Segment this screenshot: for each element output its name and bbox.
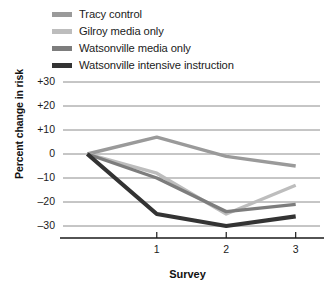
legend-label-watsonville-media-only: Watsonville media only xyxy=(79,42,191,54)
legend-label-watsonville-intensive-instruction: Watsonville intensive instruction xyxy=(79,59,234,71)
legend-swatch-gilroy-media-only xyxy=(52,29,72,34)
legend-swatch-watsonville-intensive-instruction xyxy=(52,63,72,68)
x-tick-label-2: 2 xyxy=(214,243,238,255)
y-tick-label-0: +30 xyxy=(21,75,55,87)
legend-item-watsonville-media-only: Watsonville media only xyxy=(52,40,327,56)
legend-swatch-watsonville-media-only xyxy=(52,46,72,51)
legend-item-gilroy-media-only: Gilroy media only xyxy=(52,23,327,39)
y-tick-label-5: –20 xyxy=(21,195,55,207)
x-axis-title: Survey xyxy=(60,268,315,280)
legend-item-tracy-control: Tracy control xyxy=(52,6,327,22)
legend-item-watsonville-intensive-instruction: Watsonville intensive instruction xyxy=(52,57,327,73)
chart-figure: Tracy control Gilroy media only Watsonvi… xyxy=(0,0,333,289)
chart-legend: Tracy control Gilroy media only Watsonvi… xyxy=(52,6,327,74)
legend-label-gilroy-media-only: Gilroy media only xyxy=(79,25,164,37)
y-tick-label-1: +20 xyxy=(21,99,55,111)
legend-swatch-tracy-control xyxy=(52,12,72,17)
x-tick-label-3: 3 xyxy=(284,243,308,255)
legend-label-tracy-control: Tracy control xyxy=(79,8,142,20)
x-tick-label-1: 1 xyxy=(145,243,169,255)
y-tick-label-3: 0 xyxy=(21,147,55,159)
y-tick-label-6: –30 xyxy=(21,219,55,231)
y-tick-label-4: –10 xyxy=(21,171,55,183)
y-tick-label-2: +10 xyxy=(21,123,55,135)
